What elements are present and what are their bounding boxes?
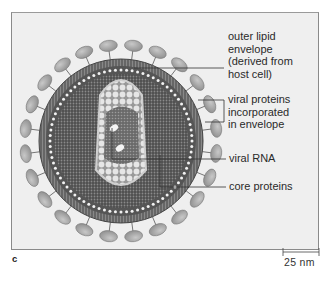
glycoprotein-spike (187, 189, 207, 210)
glycoprotein-spike (52, 55, 73, 75)
label-core-proteins: core proteins (229, 180, 293, 193)
label-line: core proteins (229, 180, 293, 193)
glycoprotein-spike (147, 221, 168, 238)
glycoprotein-spike (24, 167, 41, 188)
glycoprotein-spike (124, 39, 143, 52)
viral-rna-region (104, 107, 139, 165)
panel-letter: c (12, 253, 17, 264)
label-line: outer lipid (228, 30, 293, 43)
glycoprotein-spike (74, 221, 95, 238)
label-line: envelope (228, 43, 293, 56)
glycoprotein-spike (74, 44, 95, 61)
glycoprotein-spike (19, 144, 32, 163)
glycoprotein-spike (124, 230, 143, 243)
glycoprotein-spike (201, 167, 218, 188)
glycoprotein-spike (99, 230, 118, 243)
glycoprotein-spike (147, 44, 168, 61)
label-outer-lipid-envelope: outer lipid envelope (derived from host … (228, 30, 293, 80)
scale-bar (283, 248, 319, 256)
glycoprotein-spike (24, 94, 41, 115)
glycoprotein-spike (169, 55, 190, 75)
glycoprotein-spike (19, 119, 32, 138)
label-line: in envelope (228, 118, 290, 131)
label-line: viral proteins (228, 93, 290, 106)
glycoprotein-spike (35, 72, 55, 93)
glycoprotein-spike (99, 39, 118, 52)
glycoprotein-spike (201, 94, 218, 115)
label-viral-proteins: viral proteins incorporated in envelope (228, 93, 290, 131)
glycoprotein-spike (52, 207, 73, 227)
label-line: (derived from (228, 55, 293, 68)
glycoprotein-spike (35, 189, 55, 210)
label-line: incorporated (228, 106, 290, 119)
scale-bar-label: 25 nm (284, 256, 315, 268)
glycoprotein-spike (169, 207, 190, 227)
label-viral-rna: viral RNA (229, 152, 275, 165)
label-line: host cell) (228, 68, 293, 81)
glycoprotein-spike (187, 72, 207, 93)
label-line: viral RNA (229, 152, 275, 165)
glycoprotein-spike (210, 144, 223, 163)
